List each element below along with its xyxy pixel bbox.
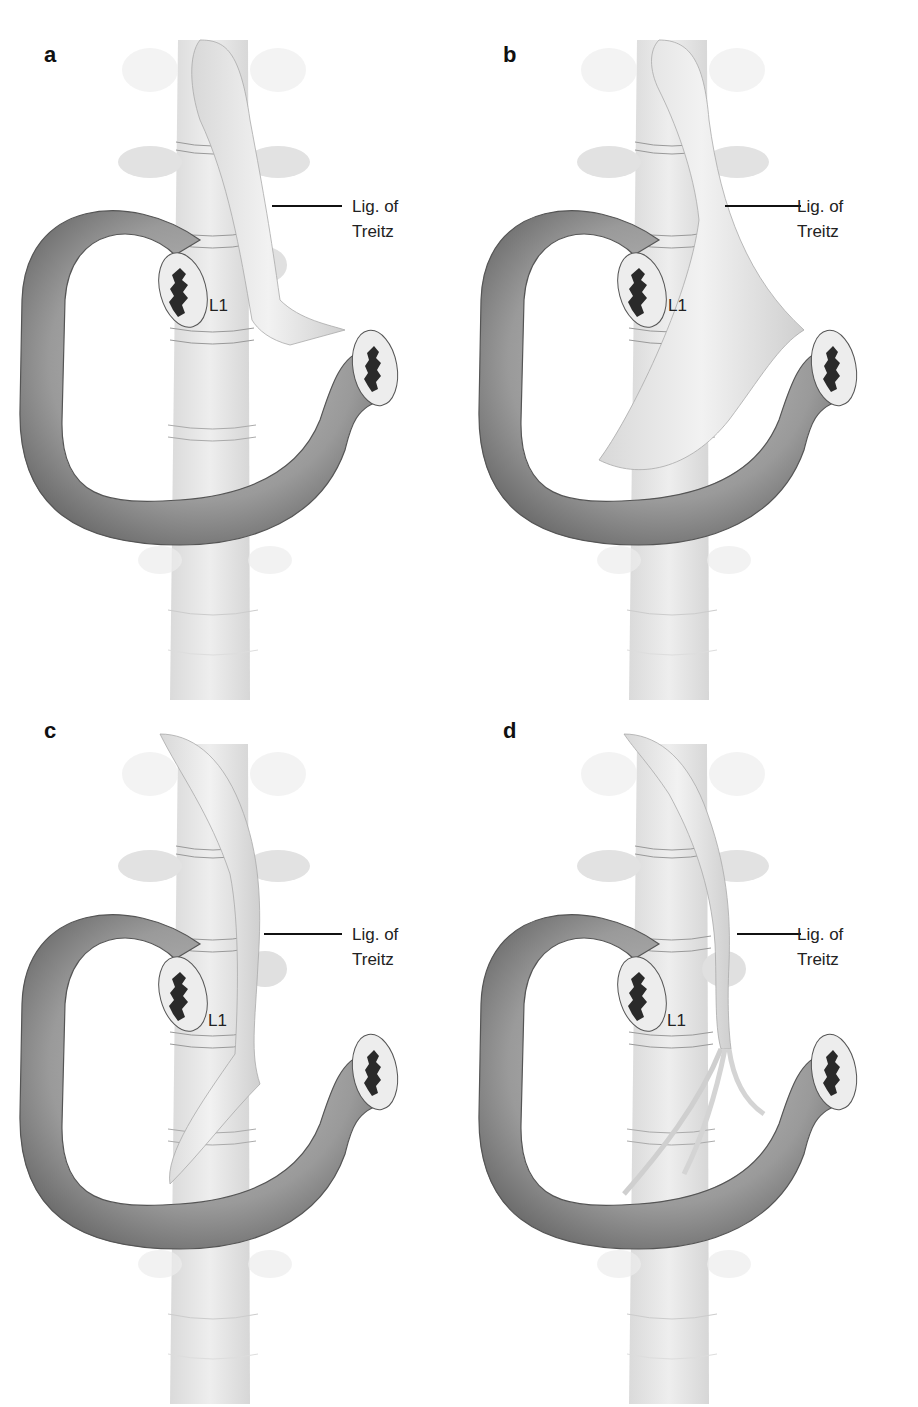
panel-a: a Lig. of Treitz L1 — [0, 0, 459, 700]
vertebra-label: L1 — [668, 296, 687, 316]
ligament-label: Lig. of Treitz — [352, 194, 398, 244]
anatomy-illustration — [459, 704, 918, 1404]
anatomy-illustration — [459, 0, 918, 700]
panel-d: d Lig. of Treitz L1 — [459, 704, 918, 1404]
ligament-label: Lig. of Treitz — [797, 194, 843, 244]
anatomy-illustration — [0, 0, 459, 700]
ligament-label: Lig. of Treitz — [352, 922, 398, 972]
panel-letter: a — [44, 42, 56, 68]
vertebra-label: L1 — [208, 1011, 227, 1031]
panel-letter: d — [503, 718, 516, 744]
vertebra-label: L1 — [667, 1011, 686, 1031]
spine-illustration — [118, 744, 310, 1404]
panel-b: b Lig. of Treitz L1 — [459, 0, 918, 700]
ligament-label: Lig. of Treitz — [797, 922, 843, 972]
panel-letter: b — [503, 42, 516, 68]
spine-illustration — [577, 744, 769, 1404]
panel-c: c Lig. of Treitz L1 — [0, 704, 459, 1404]
panel-letter: c — [44, 718, 56, 744]
vertebra-label: L1 — [209, 296, 228, 316]
anatomy-illustration — [0, 704, 459, 1404]
